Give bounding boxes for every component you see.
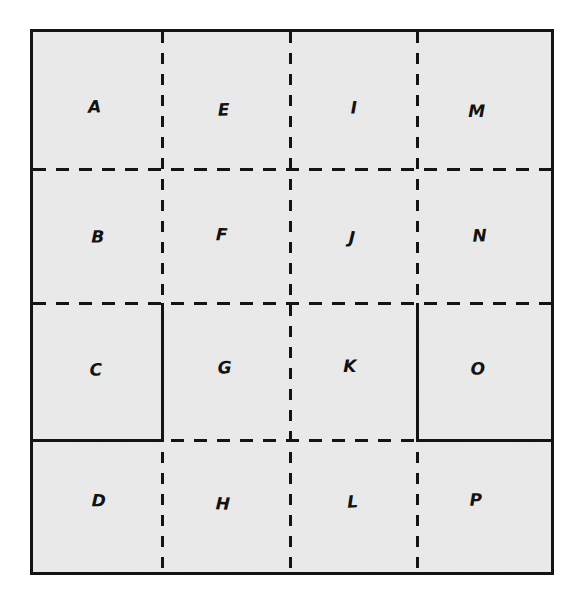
cell-n-label: N [472,228,487,246]
cell-e-label: E [218,102,231,119]
outer-border-right [551,29,554,575]
cell-k-label: K [343,359,357,376]
cell-a-label: A [88,99,102,117]
solid-below-c [33,439,164,442]
cell-c-label: C [89,362,102,379]
cell-j-label: J [348,230,356,247]
solid-left-of-o [416,303,419,441]
outer-border-top [30,29,554,32]
cell-m-label: M [468,104,485,121]
solid-below-o [417,439,551,442]
outer-border-bottom [30,572,554,575]
cell-i-label: I [350,100,357,117]
cell-f-label: F [216,227,229,244]
cell-p-label: P [469,492,482,509]
cell-l-label: L [347,494,359,511]
dashed-row-divider-1 [33,168,551,171]
dashed-row-divider-2 [33,302,551,305]
cell-h-label: H [215,496,230,514]
cell-o-label: O [470,361,485,378]
cell-d-label: D [91,493,106,510]
solid-right-of-c [161,303,164,441]
cell-g-label: G [218,360,233,377]
cell-b-label: B [91,229,105,246]
diagram-root: AEIMBFJNCGKODHLP [0,0,577,600]
